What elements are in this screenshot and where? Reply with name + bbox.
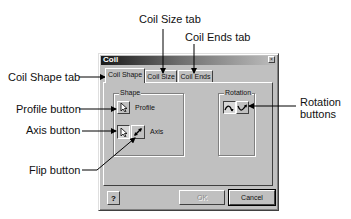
callout-arrows — [0, 0, 351, 219]
tab-coil-shape-label: Coil Shape — [108, 71, 142, 78]
arrow-flip-button — [82, 138, 135, 170]
tab-coil-shape[interactable]: Coil Shape — [105, 68, 145, 83]
